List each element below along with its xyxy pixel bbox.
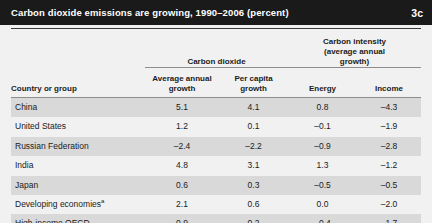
cell-per-capita-growth: 0.2 bbox=[219, 214, 288, 223]
country-label: Developing economies bbox=[15, 199, 101, 209]
cell-per-capita-growth: –2.2 bbox=[219, 137, 288, 156]
cell-energy: 0.8 bbox=[288, 98, 357, 118]
figure-title-bar: Carbon dioxide emissions are growing, 19… bbox=[0, 0, 432, 25]
column-header-per-capita-growth: Per capita growth bbox=[219, 68, 288, 98]
cell-avg-annual-growth: 5.1 bbox=[145, 98, 219, 118]
cell-energy: –0.1 bbox=[288, 117, 357, 136]
cell-per-capita-growth: 0.1 bbox=[219, 117, 288, 136]
cell-avg-annual-growth: 4.8 bbox=[145, 156, 219, 175]
figure-container: Carbon dioxide emissions are growing, 19… bbox=[0, 0, 432, 223]
column-header-average-annual-growth: Average annual growth bbox=[145, 68, 219, 98]
cell-energy: 0.0 bbox=[288, 195, 357, 214]
group-header-row: Carbon dioxide Carbon intensity (average… bbox=[11, 29, 421, 68]
cell-energy: –0.4 bbox=[288, 214, 357, 223]
per-capita-line-1: Per capita bbox=[234, 74, 272, 83]
cell-per-capita-growth: 4.1 bbox=[219, 98, 288, 118]
country-label: China bbox=[15, 102, 37, 112]
avg-growth-line-1: Average annual bbox=[152, 74, 211, 83]
cell-energy: –0.9 bbox=[288, 137, 357, 156]
cell-country: China bbox=[11, 98, 145, 118]
cell-energy: –0.5 bbox=[288, 176, 357, 195]
cell-avg-annual-growth: –2.4 bbox=[145, 137, 219, 156]
column-header-row: Country or group Average annual growth P… bbox=[11, 68, 421, 98]
country-label: Japan bbox=[15, 180, 38, 190]
cell-avg-annual-growth: 0.6 bbox=[145, 176, 219, 195]
table-row: Developing economiesa2.10.60.0–2.0 bbox=[11, 195, 421, 214]
table-row: United States1.20.1–0.1–1.9 bbox=[11, 117, 421, 136]
figure-title: Carbon dioxide emissions are growing, 19… bbox=[11, 7, 411, 18]
table-head: Carbon dioxide Carbon intensity (average… bbox=[11, 25, 421, 98]
group-header-spacer bbox=[11, 29, 145, 68]
per-capita-line-2: growth bbox=[240, 84, 267, 93]
cell-country: Developing economiesa bbox=[11, 195, 145, 214]
carbon-intensity-line-1: Carbon intensity bbox=[323, 37, 386, 46]
column-header-country: Country or group bbox=[11, 68, 145, 98]
cell-income: –2.0 bbox=[357, 195, 421, 214]
cell-per-capita-growth: 0.3 bbox=[219, 176, 288, 195]
table-row: India4.83.11.3–1.2 bbox=[11, 156, 421, 175]
table-body: China5.14.10.8–4.3United States1.20.1–0.… bbox=[11, 98, 421, 224]
table-row: China5.14.10.8–4.3 bbox=[11, 98, 421, 118]
cell-country: India bbox=[11, 156, 145, 175]
country-label: India bbox=[15, 160, 33, 170]
cell-avg-annual-growth: 0.9 bbox=[145, 214, 219, 223]
cell-income: –1.2 bbox=[357, 156, 421, 175]
cell-energy: 1.3 bbox=[288, 156, 357, 175]
country-label: Russian Federation bbox=[15, 141, 89, 151]
emissions-table: Carbon dioxide Carbon intensity (average… bbox=[11, 25, 421, 223]
cell-income: –0.5 bbox=[357, 176, 421, 195]
carbon-intensity-line-3: growth) bbox=[340, 57, 369, 66]
table-row: Russian Federation–2.4–2.2–0.9–2.8 bbox=[11, 137, 421, 156]
cell-country: High-income OECD bbox=[11, 214, 145, 223]
cell-country: Russian Federation bbox=[11, 137, 145, 156]
cell-avg-annual-growth: 1.2 bbox=[145, 117, 219, 136]
column-header-energy: Energy bbox=[288, 68, 357, 98]
cell-avg-annual-growth: 2.1 bbox=[145, 195, 219, 214]
cell-per-capita-growth: 0.6 bbox=[219, 195, 288, 214]
cell-income: –1.9 bbox=[357, 117, 421, 136]
figure-number-badge: 3c bbox=[411, 7, 423, 19]
country-label: United States bbox=[15, 121, 66, 131]
table-area: Carbon dioxide Carbon intensity (average… bbox=[0, 25, 432, 223]
cell-per-capita-growth: 3.1 bbox=[219, 156, 288, 175]
cell-income: –1.7 bbox=[357, 214, 421, 223]
cell-country: United States bbox=[11, 117, 145, 136]
table-row: Japan0.60.3–0.5–0.5 bbox=[11, 176, 421, 195]
group-header-carbon-dioxide: Carbon dioxide bbox=[145, 29, 288, 68]
column-header-income: Income bbox=[357, 68, 421, 98]
footnote-marker: a bbox=[101, 198, 104, 204]
table-row: High-income OECD0.90.2–0.4–1.7 bbox=[11, 214, 421, 223]
group-header-carbon-intensity: Carbon intensity (average annual growth) bbox=[288, 29, 421, 68]
avg-growth-line-2: growth bbox=[169, 84, 196, 93]
country-label: High-income OECD bbox=[15, 218, 90, 223]
cell-income: –2.8 bbox=[357, 137, 421, 156]
cell-income: –4.3 bbox=[357, 98, 421, 118]
cell-country: Japan bbox=[11, 176, 145, 195]
carbon-intensity-line-2: (average annual bbox=[324, 47, 385, 56]
